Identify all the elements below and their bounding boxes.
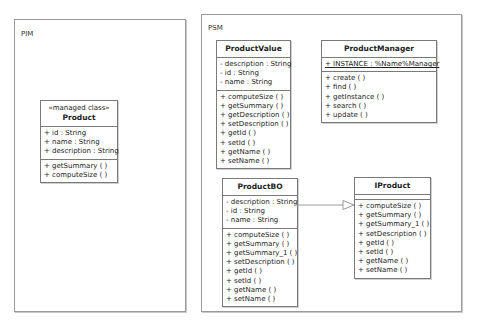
realization-connector[interactable] <box>0 0 477 326</box>
hollow-triangle-arrow-icon <box>343 201 354 210</box>
